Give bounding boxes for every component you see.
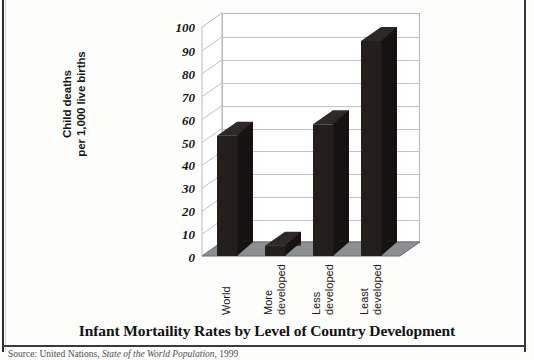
source-prefix: Source: United Nations, (8, 349, 102, 359)
gridline-50 (222, 129, 420, 130)
source-publication: State of the World Population (102, 349, 215, 359)
figure-page: Child deaths per 1,000 live births (0, 0, 534, 360)
x-label-least-developed: Least developed (358, 264, 383, 315)
gridline-80 (222, 60, 420, 61)
gridline-40 (222, 151, 420, 152)
x-label-least-developed-line1: Least (358, 264, 371, 315)
y-tick-50: 50 (155, 136, 195, 152)
plot-back-wall (222, 13, 420, 242)
y-tick-10: 10 (155, 227, 195, 243)
y-tick-30: 30 (155, 181, 195, 197)
page-border-bottom (2, 345, 526, 347)
y-tick-100: 100 (155, 20, 195, 36)
y-tick-20: 20 (155, 204, 195, 220)
chart-title: Infant Mortaility Rates by Level of Coun… (0, 322, 534, 340)
y-tick-90: 90 (155, 44, 195, 60)
x-label-more-developed: More developed (262, 264, 287, 315)
x-label-less-developed-line2: developed (323, 264, 336, 315)
source-year: , 1999 (215, 349, 239, 359)
y-tick-80: 80 (155, 67, 195, 83)
x-label-world-line1: World (220, 286, 233, 315)
gridline-20 (222, 197, 420, 198)
gridline-60 (222, 106, 420, 107)
x-label-more-developed-line2: developed (275, 264, 288, 315)
x-label-world: World (220, 286, 233, 315)
y-tick-40: 40 (155, 158, 195, 174)
x-label-less-developed-line1: Less (310, 264, 323, 315)
x-label-least-developed-line2: developed (371, 264, 384, 315)
x-label-more-developed-line1: More (262, 264, 275, 315)
y-tick-60: 60 (155, 113, 195, 129)
gridline-30 (222, 174, 420, 175)
source-caption: Source: United Nations, State of the Wor… (8, 349, 238, 359)
y-tick-70: 70 (155, 90, 195, 106)
gridline-90 (222, 37, 420, 38)
x-label-less-developed: Less developed (310, 264, 335, 315)
bar-chart: Child deaths per 1,000 live births (0, 0, 534, 345)
gridline-10 (222, 220, 420, 221)
gridline-70 (222, 83, 420, 84)
y-tick-0: 0 (155, 250, 195, 266)
